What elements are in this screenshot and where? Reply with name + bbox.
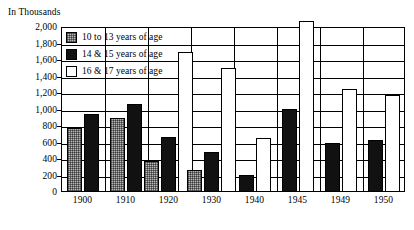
gridline — [62, 127, 404, 128]
gridline — [62, 177, 404, 178]
legend-swatch-icon — [66, 49, 77, 60]
y-axis: 2,0001,8001,6001,4001,2001,0008006004002… — [0, 27, 57, 192]
legend-item-label: 10 to 13 years of age — [82, 32, 162, 42]
y-axis-tick-label: 1,600 — [5, 55, 57, 65]
legend-item-label: 14 & 15 years of age — [82, 49, 162, 59]
gridline — [62, 160, 404, 161]
y-axis-tick-mark — [57, 143, 61, 144]
y-axis-tick-mark — [57, 110, 61, 111]
y-axis-tick-label: 1,000 — [5, 105, 57, 115]
x-axis-tick-label: 1950 — [374, 195, 393, 205]
y-axis-tick-label: 2,000 — [5, 22, 57, 32]
x-axis: 19001910192019301940194519491950 — [61, 195, 405, 213]
x-axis-tick-label: 1930 — [202, 195, 221, 205]
y-axis-tick-label: 1,800 — [5, 39, 57, 49]
gridline — [62, 94, 404, 95]
legend-swatch-icon — [66, 66, 77, 77]
y-axis-tick-mark — [57, 126, 61, 127]
x-axis-tick-label: 1900 — [73, 195, 92, 205]
legend-swatch-icon — [66, 32, 77, 43]
gridline — [62, 111, 404, 112]
legend: 10 to 13 years of age14 & 15 years of ag… — [66, 29, 188, 80]
y-axis-tick-label: 600 — [5, 138, 57, 148]
y-axis-tick-mark — [57, 176, 61, 177]
group-separator — [191, 28, 192, 191]
y-axis-tick-label: 200 — [5, 171, 57, 181]
y-axis-tick-label: 400 — [5, 154, 57, 164]
y-axis-tick-label: 1,400 — [5, 72, 57, 82]
y-axis-tick-mark — [57, 60, 61, 61]
legend-item-label: 16 & 17 years of age — [82, 66, 162, 76]
y-axis-tick-mark — [57, 44, 61, 45]
x-axis-tick-label: 1920 — [159, 195, 178, 205]
y-axis-tick-label: 800 — [5, 121, 57, 131]
y-axis-tick-mark — [57, 159, 61, 160]
legend-item: 10 to 13 years of age — [66, 29, 188, 45]
group-separator — [363, 28, 364, 191]
y-axis-tick-mark — [57, 93, 61, 94]
group-separator — [320, 28, 321, 191]
bar-chart: In Thousands 2,0001,8001,6001,4001,2001,… — [0, 0, 414, 230]
group-separator — [234, 28, 235, 191]
x-axis-tick-label: 1945 — [288, 195, 307, 205]
y-axis-tick-label: 0 — [5, 187, 57, 197]
x-axis-tick-label: 1910 — [116, 195, 135, 205]
legend-item: 14 & 15 years of age — [66, 46, 188, 62]
x-axis-tick-label: 1940 — [245, 195, 264, 205]
y-axis-tick-label: 1,200 — [5, 88, 57, 98]
x-axis-tick-label: 1949 — [331, 195, 350, 205]
legend-item: 16 & 17 years of age — [66, 63, 188, 79]
gridline — [62, 144, 404, 145]
group-separator — [277, 28, 278, 191]
y-axis-tick-mark — [57, 77, 61, 78]
axis-unit-caption: In Thousands — [8, 7, 60, 17]
